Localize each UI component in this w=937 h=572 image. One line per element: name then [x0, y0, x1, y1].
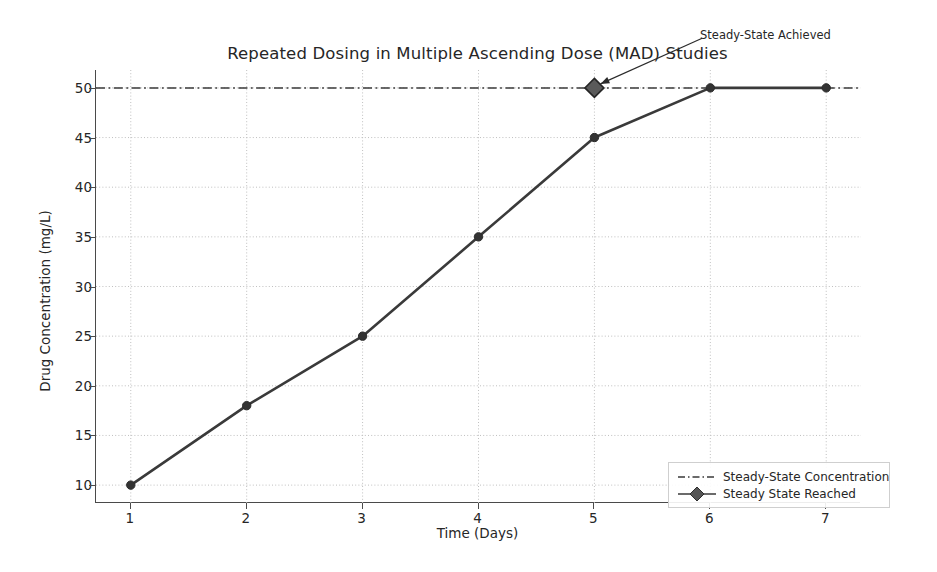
legend-label-steady-state-reached: Steady State Reached [723, 487, 856, 501]
steady-state-reached-marker [585, 78, 604, 97]
x-tick-label: 2 [226, 510, 266, 526]
legend-item-steady-state-reached: Steady State Reached [676, 485, 882, 502]
y-tick-label: 40 [52, 179, 92, 195]
x-tick-mark [130, 503, 131, 509]
legend-item-steady-state-concentration: Steady-State Concentration [676, 468, 882, 485]
x-tick-label: 1 [110, 510, 150, 526]
chart-figure: Repeated Dosing in Multiple Ascending Do… [0, 0, 937, 572]
plot-area [95, 70, 860, 503]
x-tick-label: 6 [689, 510, 729, 526]
x-axis-label: Time (Days) [95, 525, 860, 541]
x-tick-mark [593, 503, 594, 509]
x-tick-mark [362, 503, 363, 509]
y-tick-label: 25 [52, 328, 92, 344]
x-tick-label: 3 [342, 510, 382, 526]
legend-label-steady-state-concentration: Steady-State Concentration [723, 470, 889, 484]
plot-canvas [96, 70, 861, 503]
y-tick-label: 50 [52, 80, 92, 96]
y-tick-label: 15 [52, 427, 92, 443]
y-axis-label: Drug Concentration (mg/L) [37, 151, 53, 451]
x-tick-label: 4 [458, 510, 498, 526]
y-tick-label: 45 [52, 130, 92, 146]
y-tick-label: 10 [52, 477, 92, 493]
x-tick-mark [478, 503, 479, 509]
x-tick-label: 7 [805, 510, 845, 526]
y-tick-label: 30 [52, 279, 92, 295]
legend-swatch-dashdot-line [676, 469, 718, 485]
chart-title: Repeated Dosing in Multiple Ascending Do… [95, 44, 860, 63]
steady-state-annotation-label: Steady-State Achieved [700, 28, 831, 42]
chart-legend: Steady-State Concentration Steady State … [668, 462, 890, 508]
x-tick-label: 5 [573, 510, 613, 526]
x-tick-mark [246, 503, 247, 509]
legend-swatch-diamond-marker [676, 486, 718, 502]
gridlines [96, 70, 861, 503]
y-tick-label: 35 [52, 229, 92, 245]
y-tick-label: 20 [52, 378, 92, 394]
